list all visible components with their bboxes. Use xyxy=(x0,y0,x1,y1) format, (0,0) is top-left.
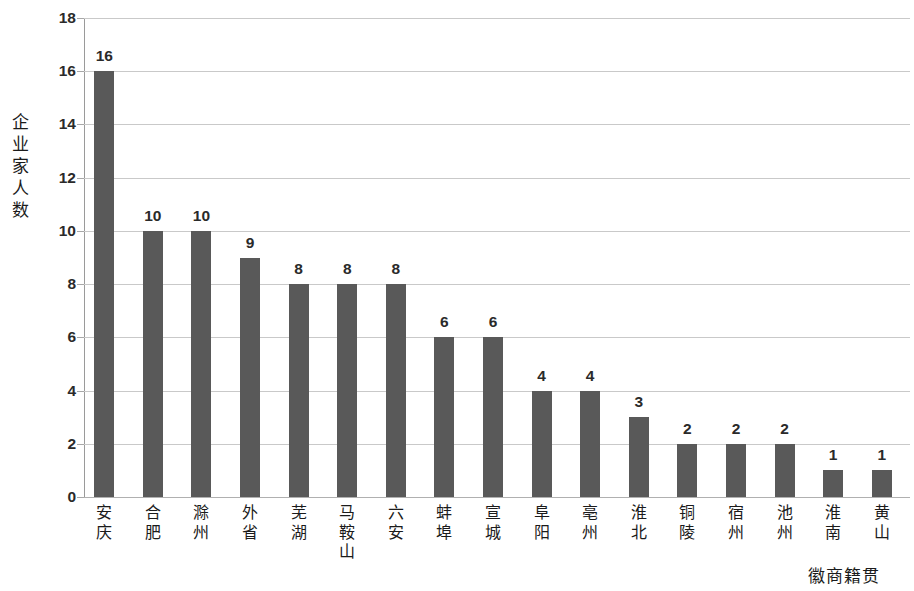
x-axis-category-label: 蚌 埠 xyxy=(429,503,459,542)
bar[interactable] xyxy=(532,391,552,497)
bar-value-label: 8 xyxy=(279,260,319,278)
bar-value-label: 10 xyxy=(133,207,173,225)
x-axis-title: 徽商籍贯 xyxy=(808,562,880,587)
x-axis-category-label: 黄 山 xyxy=(867,503,897,542)
x-axis-category-label: 马 鞍 山 xyxy=(332,503,362,562)
plot-area: 16101098886644322211 xyxy=(84,18,910,497)
gridline xyxy=(84,71,910,72)
gridline xyxy=(84,124,910,125)
bar-value-label: 16 xyxy=(84,47,124,65)
bar-value-label: 8 xyxy=(376,260,416,278)
bar-value-label: 4 xyxy=(522,367,562,385)
bar[interactable] xyxy=(726,444,746,497)
y-axis-tick-label: 0 xyxy=(36,488,76,506)
x-axis-category-label: 芜 湖 xyxy=(284,503,314,542)
y-axis-tick-label: 16 xyxy=(36,62,76,80)
x-axis-category-label: 淮 北 xyxy=(624,503,654,542)
x-axis-category-label: 安 庆 xyxy=(89,503,119,542)
gridline xyxy=(84,178,910,179)
y-axis-tickmark xyxy=(77,18,84,19)
bar[interactable] xyxy=(143,231,163,497)
bar-value-label: 2 xyxy=(667,420,707,438)
y-axis-tick-label: 10 xyxy=(36,222,76,240)
bar[interactable] xyxy=(677,444,697,497)
bar-value-label: 1 xyxy=(862,446,902,464)
y-axis-tickmark xyxy=(77,178,84,179)
y-axis-tickmark xyxy=(77,391,84,392)
bar[interactable] xyxy=(483,337,503,497)
bar[interactable] xyxy=(580,391,600,497)
x-axis-category-label: 阜 阳 xyxy=(527,503,557,542)
y-axis-tickmark xyxy=(77,124,84,125)
x-axis-category-label: 淮 南 xyxy=(818,503,848,542)
y-axis-tick-label: 4 xyxy=(36,382,76,400)
bar-value-label: 4 xyxy=(570,367,610,385)
bar-value-label: 6 xyxy=(424,313,464,331)
bar-value-label: 1 xyxy=(813,446,853,464)
y-axis-tick-label: 2 xyxy=(36,435,76,453)
y-axis-tick-label: 14 xyxy=(36,115,76,133)
y-axis-tick-label: 8 xyxy=(36,275,76,293)
x-axis-category-label: 亳 州 xyxy=(575,503,605,542)
y-axis-tickmark xyxy=(77,284,84,285)
gridline xyxy=(84,497,910,498)
bar[interactable] xyxy=(94,71,114,497)
bar[interactable] xyxy=(823,470,843,497)
x-axis-category-label: 合 肥 xyxy=(138,503,168,542)
y-axis-tick-label: 6 xyxy=(36,328,76,346)
bar[interactable] xyxy=(872,470,892,497)
bar-value-label: 9 xyxy=(230,234,270,252)
y-axis-tick-label: 12 xyxy=(36,169,76,187)
bar[interactable] xyxy=(289,284,309,497)
x-axis-category-label: 六 安 xyxy=(381,503,411,542)
y-axis-tickmark xyxy=(77,497,84,498)
bar-value-label: 8 xyxy=(327,260,367,278)
x-axis-category-label: 滁 州 xyxy=(186,503,216,542)
bar[interactable] xyxy=(434,337,454,497)
x-axis-category-label: 铜 陵 xyxy=(672,503,702,542)
bar-value-label: 2 xyxy=(716,420,756,438)
bar[interactable] xyxy=(337,284,357,497)
bar-value-label: 10 xyxy=(181,207,221,225)
y-axis-tickmark xyxy=(77,71,84,72)
bar-value-label: 6 xyxy=(473,313,513,331)
y-axis-tick-label: 18 xyxy=(36,9,76,27)
x-axis-category-label: 宣 城 xyxy=(478,503,508,542)
y-axis-tickmark xyxy=(77,231,84,232)
y-axis-tickmark xyxy=(77,337,84,338)
bar[interactable] xyxy=(775,444,795,497)
y-axis-tick-labels: 181614121086420 xyxy=(28,0,76,591)
x-axis-category-label: 池 州 xyxy=(770,503,800,542)
bar[interactable] xyxy=(629,417,649,497)
gridline xyxy=(84,18,910,19)
bar[interactable] xyxy=(191,231,211,497)
y-axis-tickmark xyxy=(77,444,84,445)
bar-value-label: 2 xyxy=(765,420,805,438)
bar[interactable] xyxy=(240,258,260,498)
bar-chart: 企 业 家 人 数 181614121086420 16101098886644… xyxy=(0,0,914,591)
x-axis-category-label: 宿 州 xyxy=(721,503,751,542)
x-axis-category-label: 外 省 xyxy=(235,503,265,542)
bar[interactable] xyxy=(386,284,406,497)
bar-value-label: 3 xyxy=(619,393,659,411)
